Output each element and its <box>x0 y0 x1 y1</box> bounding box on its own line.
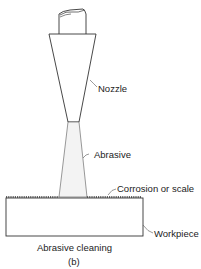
nozzle-leader <box>90 80 97 87</box>
workpiece-leader <box>143 225 153 233</box>
nozzle <box>49 34 96 122</box>
workpiece <box>6 198 143 236</box>
figure-caption: Abrasive cleaning <box>37 243 112 253</box>
nozzle-label: Nozzle <box>98 84 127 94</box>
abrasive-label: Abrasive <box>94 150 131 160</box>
corrosion-leader <box>108 189 116 195</box>
supply-pipe <box>59 9 86 34</box>
figure-sublabel: (b) <box>68 257 80 267</box>
abrasive-leader <box>83 154 89 158</box>
workpiece-label: Workpiece <box>154 229 199 239</box>
abrasive-stream <box>59 122 87 197</box>
corrosion-label: Corrosion or scale <box>117 184 194 194</box>
